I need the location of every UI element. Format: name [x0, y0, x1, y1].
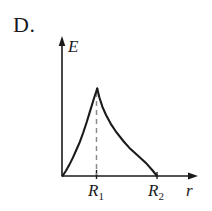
x-tick-label-r1-base: R: [87, 181, 99, 200]
figure-root: D. E r R1 R2: [0, 0, 212, 211]
y-axis-arrow-icon: [59, 36, 66, 46]
x-axis-title: r: [186, 181, 193, 200]
curve-falling-branch: [97, 89, 157, 177]
x-tick-label-r2-base: R: [147, 181, 159, 200]
x-axis-arrow-icon: [188, 173, 198, 180]
x-tick-label-r1-subscript: 1: [98, 190, 104, 202]
x-tick-label-r1: R1: [87, 181, 104, 202]
x-tick-label-r2-subscript: 2: [158, 190, 164, 202]
y-axis-title: E: [67, 37, 79, 56]
x-tick-label-r2: R2: [147, 181, 164, 202]
plot-canvas: E r R1 R2: [0, 0, 212, 211]
curve-rising-branch: [63, 89, 98, 177]
